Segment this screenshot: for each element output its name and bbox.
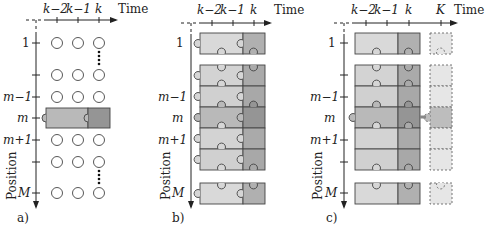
time-tick-k-2: k−2	[197, 3, 222, 17]
time-tick-K: K	[435, 3, 446, 17]
time-tick-k: k	[95, 2, 102, 16]
position-tick-M: M	[171, 186, 185, 200]
time-tick-k-1: k−1	[220, 3, 245, 17]
position-tick-M: M	[324, 186, 338, 200]
puzzle-block-row-m	[42, 108, 110, 128]
position-axis-label: Position	[159, 151, 173, 200]
panel-b: k−2 k−1 k Time 1 m−1 m m+1 M Position	[158, 3, 304, 225]
time-axis-label: Time	[274, 3, 304, 17]
time-axis-label: Time	[118, 2, 148, 16]
time-tick-k-1: k−1	[374, 3, 399, 17]
position-tick-m: m	[324, 111, 335, 125]
position-tick-m: m	[172, 111, 183, 125]
position-tick-m: m	[17, 111, 28, 125]
time-tick-k-1: k−1	[66, 2, 91, 16]
position-axis-label: Position	[311, 151, 325, 200]
time-tick-k-2: k−2	[351, 3, 376, 17]
time-tick-k-2: k−2	[43, 2, 68, 16]
panel-c: k−2 k−1 k K Time 1 m−1 m m+1 M Position	[310, 3, 484, 225]
puzzle-blocks	[355, 33, 420, 204]
time-tick-k: k	[405, 3, 412, 17]
position-tick-M: M	[17, 186, 31, 200]
position-tick-m-1: m−1	[158, 90, 187, 104]
position-tick-m+1: m+1	[3, 133, 32, 147]
panel-caption-c: c)	[326, 211, 337, 225]
position-tick-m+1: m+1	[158, 133, 187, 147]
time-axis-label: Time	[454, 3, 484, 17]
time-tick-k: k	[250, 3, 257, 17]
position-axis-label: Position	[5, 151, 19, 200]
position-tick-1: 1	[328, 36, 336, 50]
position-tick-m-1: m−1	[310, 90, 339, 104]
panel-caption-a: a)	[17, 211, 29, 225]
position-tick-m-1: m−1	[3, 90, 32, 104]
future-blocks-dashed	[424, 33, 452, 204]
panel-a: k−2 k−1 k Time 1 m−1 m m+1 M Position	[3, 2, 148, 225]
panel-caption-b: b)	[172, 211, 184, 225]
puzzle-blocks	[200, 33, 265, 204]
position-tick-m+1: m+1	[310, 133, 339, 147]
position-tick-1: 1	[176, 36, 184, 50]
figure-canvas: k−2 k−1 k Time 1 m−1 m m+1 M Position	[0, 0, 488, 231]
position-tick-1: 1	[22, 36, 30, 50]
